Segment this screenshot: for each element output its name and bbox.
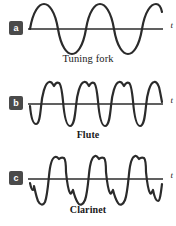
axis-label-t-c: t [170, 170, 173, 180]
panel-clarinet: c t Clarinet [0, 150, 176, 225]
axis-label-t-a: t [170, 20, 173, 30]
panel-caption-flute: Flute [0, 129, 176, 140]
panel-tuning-fork: a t Tuning fork [0, 0, 176, 75]
panel-caption-tuning-fork: Tuning fork [0, 53, 176, 64]
waveform-plot-flute [0, 75, 176, 135]
waveform-plot-tuning-fork [0, 0, 176, 60]
panel-flute: b t Flute [0, 75, 176, 150]
waveform-plot-clarinet [0, 150, 176, 210]
waveform-figure: a t Tuning fork b t Flute c [0, 0, 176, 226]
axis-label-t-b: t [170, 95, 173, 105]
panel-caption-clarinet: Clarinet [0, 204, 176, 215]
waveform-path-clarinet [30, 156, 162, 205]
